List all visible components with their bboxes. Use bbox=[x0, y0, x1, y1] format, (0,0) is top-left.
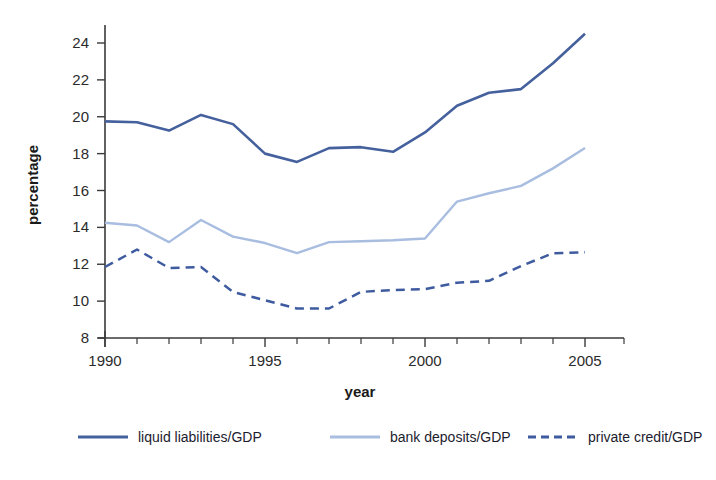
y-tick-label: 20 bbox=[72, 108, 89, 125]
y-tick-label: 22 bbox=[72, 71, 89, 88]
y-tick-label: 18 bbox=[72, 145, 89, 162]
y-axis-ticks bbox=[97, 43, 105, 338]
legend-label-0: liquid liabilities/GDP bbox=[138, 429, 262, 445]
line-chart-figure: 81012141618202224 1990199520002005 perce… bbox=[0, 0, 716, 480]
x-tick-label: 2000 bbox=[408, 352, 441, 369]
y-axis-tick-labels: 81012141618202224 bbox=[72, 34, 89, 346]
legend-label-2: private credit/GDP bbox=[588, 429, 702, 445]
x-tick-label: 1995 bbox=[248, 352, 281, 369]
y-axis-title: percentage bbox=[24, 145, 41, 225]
x-axis-tick-labels: 1990199520002005 bbox=[88, 352, 601, 369]
x-tick-label: 1990 bbox=[88, 352, 121, 369]
y-tick-label: 10 bbox=[72, 292, 89, 309]
series-line-0 bbox=[105, 34, 585, 162]
y-tick-label: 24 bbox=[72, 34, 89, 51]
chart-canvas: 81012141618202224 1990199520002005 perce… bbox=[0, 0, 716, 480]
x-axis-title: year bbox=[345, 383, 376, 400]
y-tick-label: 12 bbox=[72, 255, 89, 272]
y-tick-label: 16 bbox=[72, 182, 89, 199]
legend-label-1: bank deposits/GDP bbox=[390, 429, 511, 445]
series-line-2 bbox=[105, 250, 585, 309]
series-line-1 bbox=[105, 148, 585, 253]
x-tick-label: 2005 bbox=[568, 352, 601, 369]
data-series-group bbox=[105, 34, 585, 309]
chart-legend: liquid liabilities/GDPbank deposits/GDPp… bbox=[78, 429, 702, 445]
y-tick-label: 8 bbox=[81, 329, 89, 346]
y-tick-label: 14 bbox=[72, 218, 89, 235]
x-axis-ticks bbox=[105, 331, 624, 347]
